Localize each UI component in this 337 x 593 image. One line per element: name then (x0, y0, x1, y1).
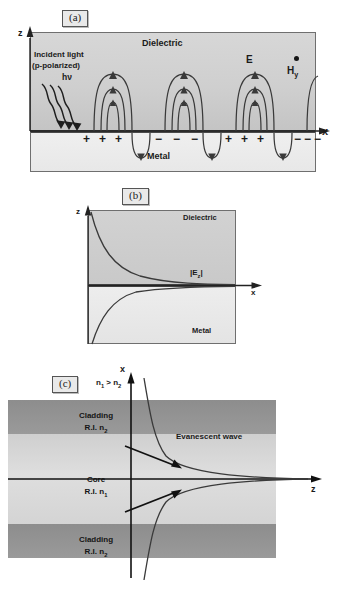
charge-sign: − (191, 133, 198, 147)
panel-b-Ez-field-label: |Ez| (190, 268, 203, 279)
panel-b-decay-curves (70, 196, 270, 346)
panel-b: (b) z x Dielectric Metal |Ez| (70, 196, 270, 346)
charge-sign: − (155, 133, 162, 147)
charge-sign: + (257, 133, 264, 147)
panel-a-x-axis-label: x (322, 125, 328, 137)
panel-c: (c) n1 > n2 CladdingR.I. n2 CoreR.I. n1 … (8, 388, 333, 586)
charge-sign: − (304, 133, 311, 147)
panel-c-evanescent-wave-label: Evanescent wave (176, 432, 242, 441)
panel-c-evanescent-profile (8, 388, 333, 586)
charge-sign: + (115, 133, 122, 147)
panel-b-metal-label: Metal (192, 327, 211, 336)
panel-a: (a) z x Dielectric Metal Incident light … (22, 32, 320, 172)
charge-sign: + (83, 133, 90, 147)
figure-container: (a) z x Dielectric Metal Incident light … (0, 0, 337, 593)
panel-b-dielectric-label: Dielectric (183, 214, 217, 223)
panel-c-x-axis-label: x (120, 364, 125, 374)
panel-a-surface-charges: + + + − − − + + + − − − (22, 32, 320, 172)
charge-sign: + (241, 133, 248, 147)
charge-sign: − (294, 133, 301, 147)
charge-sign: + (225, 133, 232, 147)
charge-sign: − (314, 133, 321, 147)
charge-sign: − (173, 133, 180, 147)
charge-sign: + (99, 133, 106, 147)
